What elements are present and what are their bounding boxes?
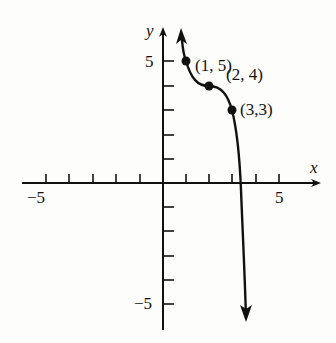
point-label-2: (2, 4) [226,65,263,84]
y-axis [163,32,174,330]
graph: (1, 5) (2, 4) (3,3) y x −5 5 5 −5 [0,0,336,343]
point-label-3: (3,3) [240,100,273,119]
x-tick-label-5: 5 [275,188,284,207]
y-tick-label-neg5: −5 [134,294,152,313]
x-axis-label: x [309,158,318,177]
x-axis [22,174,316,183]
point-3-3 [228,106,237,115]
y-tick-label-5: 5 [145,52,154,71]
y-axis-label: y [144,21,154,40]
point-1-5 [182,57,191,66]
point-2-4 [205,82,214,91]
x-tick-label-neg5: −5 [27,188,45,207]
